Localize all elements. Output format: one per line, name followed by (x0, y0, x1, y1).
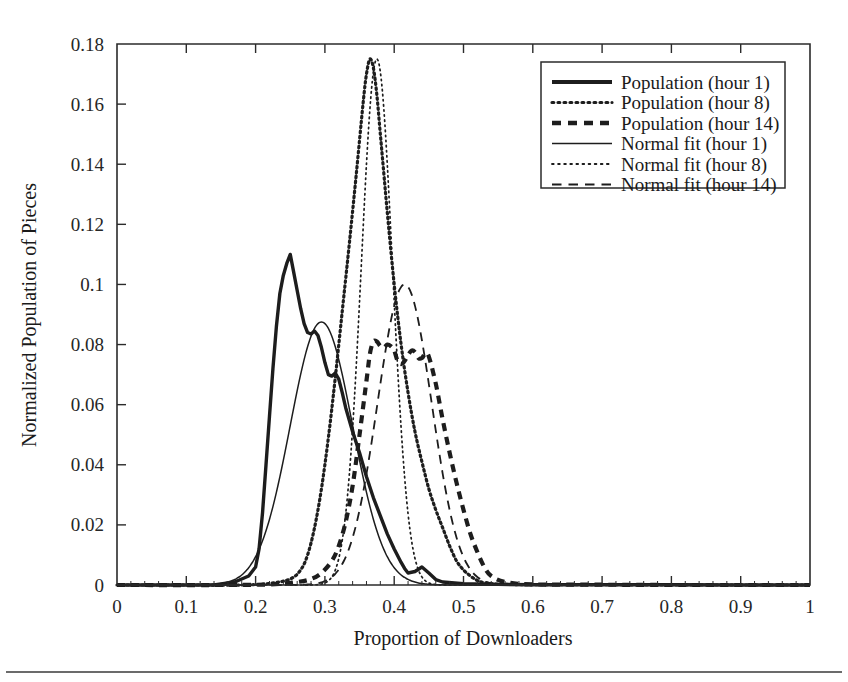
legend-label: Population (hour 1) (621, 72, 770, 94)
y-tick-label: 0.04 (71, 454, 105, 475)
distribution-chart: 00.020.040.060.080.10.120.140.160.18 00.… (0, 0, 848, 682)
x-tick-label: 0.4 (382, 596, 406, 617)
legend-label: Normal fit (hour 14) (621, 174, 777, 196)
x-tick-label: 0.3 (313, 596, 337, 617)
x-axis-tick-labels: 00.10.20.30.40.50.60.70.80.91 (112, 596, 815, 617)
y-tick-label: 0.16 (71, 94, 104, 115)
y-tick-label: 0.1 (80, 274, 104, 295)
series-curve (117, 284, 810, 585)
x-tick-label: 0.2 (244, 596, 268, 617)
x-tick-label: 0.1 (174, 596, 198, 617)
y-axis-ticks (117, 104, 126, 525)
legend-label: Normal fit (hour 8) (621, 154, 767, 176)
y-tick-label: 0 (95, 575, 105, 596)
x-tick-label: 0.5 (452, 596, 476, 617)
legend-label: Normal fit (hour 1) (621, 133, 767, 155)
x-tick-label: 1 (805, 596, 815, 617)
x-axis-title: Proportion of Downloaders (354, 627, 573, 650)
legend-label: Population (hour 8) (621, 92, 770, 114)
series-curve (117, 322, 810, 585)
x-tick-label: 0.9 (729, 596, 753, 617)
y-tick-label: 0.12 (71, 214, 104, 235)
x-tick-label: 0.6 (521, 596, 545, 617)
y-tick-label: 0.14 (71, 154, 105, 175)
x-tick-label: 0.7 (590, 596, 614, 617)
y-tick-label: 0.08 (71, 334, 104, 355)
y-axis-tick-labels: 00.020.040.060.080.10.120.140.160.18 (71, 34, 105, 596)
x-tick-label: 0.8 (660, 596, 684, 617)
y-tick-label: 0.06 (71, 394, 104, 415)
series-curve (117, 340, 810, 585)
chart-legend: Population (hour 1)Population (hour 8)Po… (541, 62, 785, 196)
figure-container: 00.020.040.060.080.10.120.140.160.18 00.… (0, 0, 848, 682)
legend-label: Population (hour 14) (621, 113, 779, 135)
y-axis-title: Normalized Population of Pieces (18, 183, 41, 447)
y-tick-label: 0.18 (71, 34, 104, 55)
x-tick-label: 0 (112, 596, 122, 617)
y-tick-label: 0.02 (71, 514, 104, 535)
series-curve (117, 254, 810, 585)
